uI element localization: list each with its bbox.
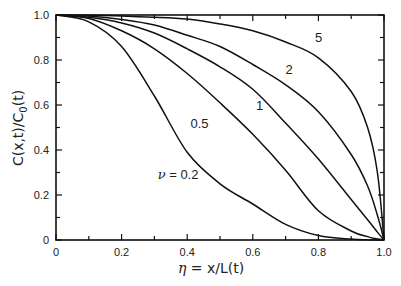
y-tick-label: 0.6 <box>34 99 49 111</box>
x-tick-label: 0.8 <box>311 246 326 258</box>
nu-symbol: ν <box>158 167 166 182</box>
curve-nu-2 <box>56 15 384 240</box>
y-tick-label: 0 <box>43 234 49 246</box>
curve-label: 1 <box>256 98 263 113</box>
y-tick-label: 1.0 <box>34 9 49 21</box>
chart: 00.20.40.60.81.000.20.40.60.81.0 ν = 0.2… <box>0 0 401 286</box>
curve-label: 5 <box>315 30 322 45</box>
curve-label-value: = 0.2 <box>166 167 199 182</box>
curve-label: 2 <box>286 62 293 77</box>
y-tick-label: 0.2 <box>34 189 49 201</box>
axis-tick-labels: 00.20.40.60.81.000.20.40.60.81.0 <box>34 9 392 258</box>
x-tick-label: 0.6 <box>245 246 260 258</box>
curve-label: ν = 0.2 <box>158 167 199 182</box>
x-tick-label: 0 <box>53 246 59 258</box>
x-axis-title-text: = x/L(t) <box>186 260 244 276</box>
curves <box>56 15 384 240</box>
y-axis-title-main: C(x,t)/C <box>10 112 26 166</box>
y-axis-title-end: (t) <box>10 90 26 106</box>
curve-labels: ν = 0.20.5125 <box>158 30 323 182</box>
plot-frame <box>56 15 384 240</box>
curve-nu-1 <box>56 15 384 240</box>
x-tick-label: 0.4 <box>180 246 195 258</box>
y-axis-title: C(x,t)/C0(t) <box>10 90 29 166</box>
x-tick-label: 1.0 <box>376 246 391 258</box>
y-tick-label: 0.8 <box>34 54 49 66</box>
curve-nu-5 <box>56 15 384 240</box>
curve-label: 0.5 <box>190 116 208 131</box>
curve-nu-0.5 <box>56 15 384 240</box>
x-tick-label: 0.2 <box>114 246 129 258</box>
y-tick-label: 0.4 <box>34 144 49 156</box>
curve-nu-0.2 <box>56 15 384 240</box>
x-axis-title: η = x/L(t) <box>178 260 244 276</box>
axis-ticks <box>56 15 384 240</box>
